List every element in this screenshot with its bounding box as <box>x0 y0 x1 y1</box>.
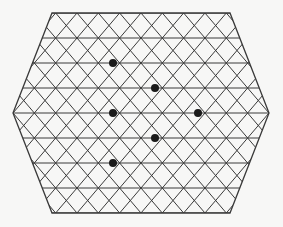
marked-lattice-point <box>151 134 159 142</box>
hexagon-lattice-diagram <box>0 0 283 227</box>
marked-lattice-point <box>109 159 117 167</box>
marked-lattice-point <box>109 59 117 67</box>
marked-lattice-point <box>151 84 159 92</box>
figure-container <box>0 0 283 227</box>
marked-lattice-point <box>109 109 117 117</box>
marked-lattice-point <box>194 109 202 117</box>
